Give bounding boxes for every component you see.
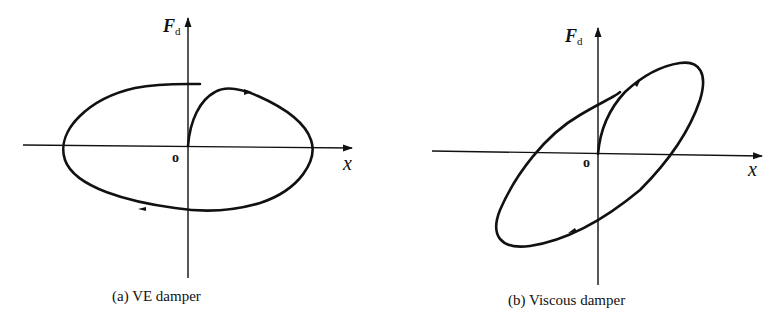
panel-a-x-axis-label: x (343, 152, 352, 175)
panel-a-y-axis-label: Fd (163, 16, 181, 37)
panel-b-plot (432, 28, 762, 285)
panel-b-caption: (b) Viscous damper (508, 292, 625, 309)
panel-a-caption: (a) VE damper (112, 288, 201, 305)
panel-b-x-axis-label: x (748, 158, 757, 181)
panel-a-plot (23, 18, 352, 278)
panel-a-origin-label: o (172, 150, 179, 166)
panel-b-y-axis-label: Fd (565, 26, 583, 47)
panel-b-hysteresis-loop (496, 63, 703, 247)
diagram-canvas (0, 0, 775, 334)
panel-b-origin-label: o (583, 155, 590, 171)
panel-a-direction-arrow-bottom (138, 207, 146, 211)
